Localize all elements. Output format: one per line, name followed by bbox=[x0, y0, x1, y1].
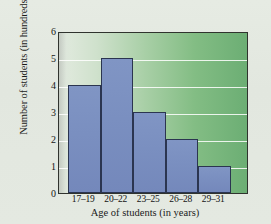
histogram-figure: Number of students (in hundreds) 0123456… bbox=[0, 0, 271, 224]
y-axis-title: Number of students (in hundreds) bbox=[18, 0, 29, 136]
y-tick-label: 2 bbox=[42, 135, 56, 145]
y-tick-label: 3 bbox=[42, 108, 56, 118]
y-tick-label: 1 bbox=[42, 162, 56, 172]
x-tick-label: 29–31 bbox=[193, 195, 234, 205]
y-tick-label: 5 bbox=[42, 54, 56, 64]
bar bbox=[133, 112, 166, 193]
y-tick-label: 0 bbox=[42, 189, 56, 199]
y-tick-label: 4 bbox=[42, 81, 56, 91]
bar bbox=[166, 139, 199, 193]
plot-area bbox=[58, 32, 248, 194]
y-tick-label: 6 bbox=[42, 27, 56, 37]
bar bbox=[198, 166, 231, 193]
x-axis-title: Age of students (in years) bbox=[40, 207, 250, 218]
bar bbox=[101, 58, 134, 193]
y-axis-tick-labels: 0123456 bbox=[42, 26, 56, 194]
bar bbox=[68, 85, 101, 193]
bar-series bbox=[59, 33, 247, 193]
